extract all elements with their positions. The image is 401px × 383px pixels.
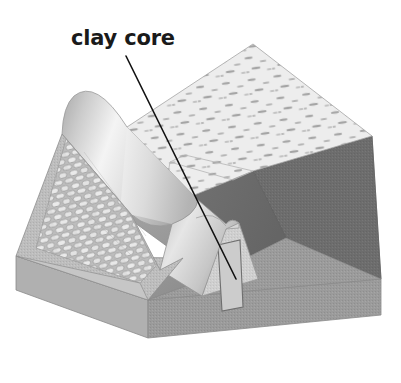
dam-cutaway-figure: clay core: [0, 0, 401, 383]
dam-diagram-svg: [0, 0, 401, 383]
